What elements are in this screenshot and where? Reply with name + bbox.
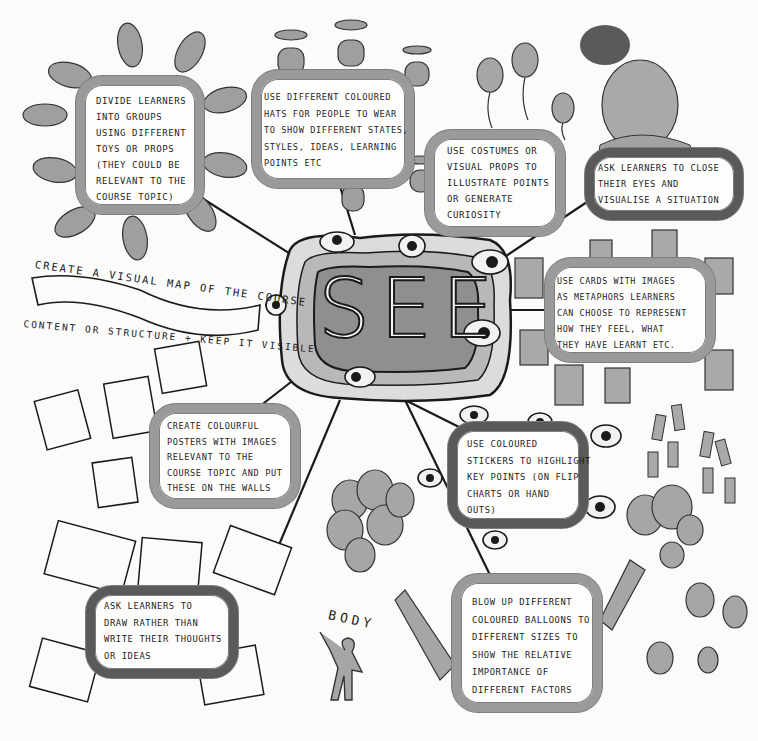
- body-figure-icon: [320, 632, 362, 700]
- node-groups-text: Divide learners into groups using differ…: [96, 93, 186, 205]
- node-balloons-text: Blow up different coloured balloons to d…: [472, 594, 590, 699]
- balloon-icons-top: [477, 43, 574, 140]
- node-hats-text: Use different coloured hats for people t…: [264, 89, 408, 172]
- center-title: SEE: [318, 268, 504, 350]
- node-draw-text: Ask learners to draw rather than write t…: [104, 598, 222, 664]
- person-closed-eyes-icon: [580, 25, 695, 160]
- node-close-eyes-text: Ask learners to close their eyes and vis…: [598, 160, 719, 208]
- node-posters-text: Create colourful posters with images rel…: [167, 419, 282, 497]
- mind-map: Divide learners into groups using differ…: [0, 0, 758, 741]
- node-stickers-text: Use coloured stickers to highlight key p…: [467, 436, 591, 519]
- node-costumes-text: Use costumes or visual props to illustra…: [447, 143, 549, 223]
- node-cards-text: Use cards with images as metaphors learn…: [557, 273, 687, 353]
